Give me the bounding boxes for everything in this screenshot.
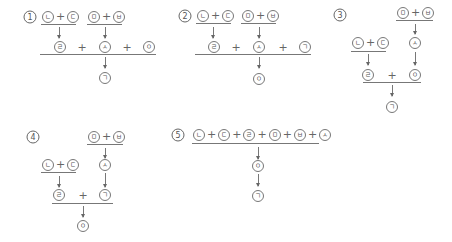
symbol: ㄴ: [193, 129, 205, 141]
arrow-down-icon: [83, 206, 84, 217]
symbol: ㄱ: [299, 41, 311, 53]
arrow-down-icon: [213, 27, 214, 38]
arrow-down-icon: [392, 85, 393, 96]
symbol: ㅂ: [422, 7, 434, 19]
symbol: ㄱ: [99, 189, 111, 201]
sum-all: ㄴ + ㄷ + ㄹ + ㅁ + ㅂ + ㅅ: [193, 129, 331, 141]
plus-sign: +: [207, 130, 216, 140]
sum-top: ㅁ + ㅂ: [397, 7, 434, 19]
sum-top: ㅁ + ㅂ: [88, 131, 125, 143]
symbol: ㄴ: [42, 159, 54, 171]
arrow-down-icon: [259, 27, 260, 38]
plus-sign: +: [232, 130, 241, 140]
arrow-down-icon: [59, 27, 60, 38]
plus-sign: +: [56, 160, 65, 170]
symbol: ㄹ: [54, 41, 66, 53]
symbol: ㅁ: [242, 10, 254, 22]
symbol: ㄹ: [243, 129, 255, 141]
symbol: ㄷ: [67, 11, 79, 23]
symbol: ㅇ: [409, 69, 421, 81]
arrow-down-icon: [105, 57, 106, 68]
underline: [351, 51, 386, 52]
plus-sign: +: [102, 12, 111, 22]
symbol: ㄷ: [218, 129, 230, 141]
symbol: ㅇ: [252, 160, 264, 172]
sum-left: ㄴ + ㄷ: [197, 10, 234, 22]
arrow-down-icon: [105, 173, 106, 187]
symbol: ㄷ: [222, 10, 234, 22]
sum-right: ㅁ + ㅂ: [242, 10, 279, 22]
plus-sign: +: [411, 8, 420, 18]
symbol: ㅅ: [253, 41, 265, 53]
plus-sign: +: [77, 41, 86, 54]
underline: [196, 23, 231, 24]
plus-sign: +: [78, 189, 87, 202]
arrow-down-icon: [258, 174, 259, 186]
symbol: ㄴ: [197, 10, 209, 22]
sum-line: [363, 82, 421, 83]
symbol: ㄴ: [42, 11, 54, 23]
option-number: 4: [27, 131, 40, 144]
arrow-down-icon: [105, 148, 106, 158]
plus-sign: +: [56, 12, 65, 22]
plus-sign: +: [211, 11, 220, 21]
symbol: ㄴ: [352, 37, 364, 49]
symbol: ㅇ: [143, 41, 155, 53]
plus-sign: +: [102, 132, 111, 142]
symbol: ㅂ: [113, 11, 125, 23]
arrow-down-icon: [105, 27, 106, 38]
arrow-down-icon: [368, 54, 369, 65]
symbol: ㅅ: [99, 159, 111, 171]
arrow-down-icon: [259, 57, 260, 68]
symbol: ㄷ: [377, 37, 389, 49]
sum-line: [195, 54, 311, 55]
symbol: ㅅ: [99, 41, 111, 53]
sum-line: [40, 54, 156, 55]
symbol: ㄹ: [362, 69, 374, 81]
plus-sign: +: [231, 41, 240, 54]
plus-sign: +: [278, 41, 287, 54]
symbol: ㅁ: [397, 7, 409, 19]
result-symbol: ㅇ: [253, 73, 265, 85]
arrow-down-icon: [415, 24, 416, 34]
plus-sign: +: [283, 130, 292, 140]
plus-sign: +: [387, 69, 396, 82]
symbol: ㅅ: [319, 129, 331, 141]
plus-sign: +: [122, 41, 131, 54]
underline: [192, 143, 319, 144]
symbol: ㅂ: [267, 10, 279, 22]
arrow-down-icon: [415, 52, 416, 65]
symbol: ㅁ: [269, 129, 281, 141]
option-number: 5: [172, 129, 185, 142]
sum-left: ㄴ + ㄷ: [42, 11, 79, 23]
arrow-down-icon: [258, 147, 259, 159]
result-symbol: ㅇ: [77, 220, 89, 232]
symbol: ㅁ: [88, 11, 100, 23]
plus-sign: +: [366, 38, 375, 48]
symbol: ㄹ: [208, 41, 220, 53]
plus-sign: +: [257, 130, 266, 140]
underline: [396, 20, 433, 21]
option-number: 3: [334, 9, 347, 22]
underline: [241, 23, 276, 24]
underline: [41, 24, 76, 25]
underline: [87, 144, 123, 145]
result-symbol: ㄱ: [99, 72, 111, 84]
plus-sign: +: [308, 130, 317, 140]
symbol: ㅂ: [294, 129, 306, 141]
option-number: 2: [179, 10, 192, 23]
result-symbol: ㄱ: [386, 101, 398, 113]
sum-line: [52, 203, 113, 204]
symbol: ㄷ: [67, 159, 79, 171]
underline: [41, 172, 76, 173]
sum-left: ㄴ + ㄷ: [42, 159, 79, 171]
option-number: 1: [24, 11, 37, 24]
plus-sign: +: [256, 11, 265, 21]
arrow-down-icon: [59, 176, 60, 187]
sum-left: ㄴ + ㄷ: [352, 37, 389, 49]
symbol: ㅁ: [88, 131, 100, 143]
underline: [87, 24, 122, 25]
symbol: ㅂ: [113, 131, 125, 143]
sum-right: ㅁ + ㅂ: [88, 11, 125, 23]
symbol: ㅅ: [409, 37, 421, 49]
